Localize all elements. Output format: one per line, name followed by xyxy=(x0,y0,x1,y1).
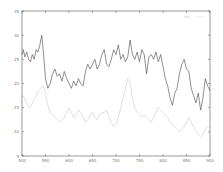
y-tick-label: 35 xyxy=(14,9,20,14)
x-tick-label: 700 xyxy=(112,158,120,163)
x-tick-label: 900 xyxy=(206,158,214,163)
y-tick-label: 15 xyxy=(14,105,20,110)
x-tick-label: 800 xyxy=(159,158,167,163)
y-tick-label: 25 xyxy=(14,57,20,62)
x-tick-label: 750 xyxy=(136,158,144,163)
y-tick-label: 20 xyxy=(14,81,20,86)
line-chart: 5101520253035 50055060065070075080085090… xyxy=(0,0,223,172)
y-tick-label: 30 xyxy=(14,33,20,38)
y-tick-label: 10 xyxy=(14,129,20,134)
x-tick-label: 500 xyxy=(18,158,26,163)
x-tick-label: 550 xyxy=(42,158,50,163)
x-tick-label: 850 xyxy=(183,158,191,163)
x-tick-label: 650 xyxy=(89,158,97,163)
x-tick-label: 600 xyxy=(65,158,73,163)
